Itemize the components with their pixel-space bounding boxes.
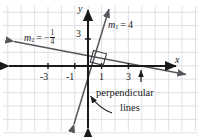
coordinate-plane-figure: y x 3 -3 -1 1 3 m1=4 m2=−14 perpendicula… [0, 0, 200, 137]
line-m2 [14, 42, 186, 75]
x-axis-label: x [175, 55, 179, 65]
slope-m2-denominator: 4 [50, 38, 56, 46]
y-tick-label-3: 3 [76, 29, 81, 39]
y-axis-label: y [78, 4, 82, 14]
slope-m2-fraction: 14 [50, 29, 56, 46]
x-tick-label-1: 1 [99, 72, 104, 82]
slope-m2-equals: = [34, 32, 44, 43]
callout-line-2: lines [120, 103, 140, 114]
x-tick-label-neg3: -3 [40, 72, 48, 82]
slope-label-m1: m1=4 [108, 20, 133, 30]
slope-label-m2: m2=−14 [24, 29, 55, 46]
slope-m1-value: 4 [128, 19, 133, 30]
graph-canvas [0, 0, 200, 137]
slope-m1-equals: = [118, 19, 128, 30]
x-tick-label-neg1: -1 [66, 72, 74, 82]
grid-lines [3, 6, 198, 133]
callout-line-1: perpendicular [96, 88, 154, 99]
x-tick-label-3: 3 [126, 72, 131, 82]
